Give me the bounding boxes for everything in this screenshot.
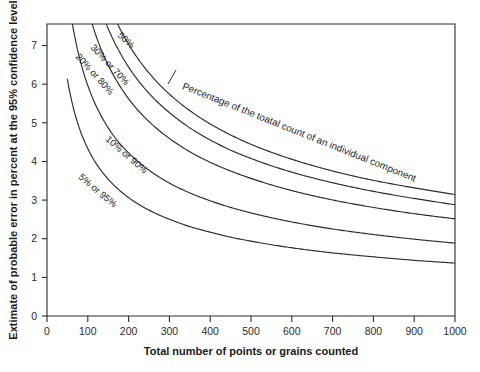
y-tick-label-0: 0 [31, 310, 37, 322]
x-tick-label-0: 0 [44, 325, 50, 337]
y-tick-label-1: 1 [31, 271, 37, 283]
x-tick-label-900: 900 [405, 325, 423, 337]
x-tick-label-600: 600 [283, 325, 301, 337]
y-tick-label-3: 3 [31, 194, 37, 206]
x-axis-title: Total number of points or grains counted [144, 345, 358, 357]
y-axis-title: Extimate of probable error in percent at… [7, 0, 19, 339]
probable-error-chart: 0 1 2 3 4 5 6 7 0 100 200 300 400 [0, 0, 480, 372]
y-tick-label-4: 4 [31, 155, 37, 167]
x-tick-label-300: 300 [161, 325, 179, 337]
y-tick-label-2: 2 [31, 232, 37, 244]
y-tick-label-7: 7 [31, 39, 37, 51]
x-tick-label-1000: 1000 [443, 325, 467, 337]
x-tick-label-100: 100 [79, 325, 97, 337]
x-tick-label-500: 500 [242, 325, 260, 337]
y-tick-label-5: 5 [31, 117, 37, 129]
x-tick-label-700: 700 [324, 325, 342, 337]
chart-container: 0 1 2 3 4 5 6 7 0 100 200 300 400 [0, 0, 480, 372]
x-tick-label-800: 800 [365, 325, 383, 337]
x-tick-label-400: 400 [201, 325, 219, 337]
y-tick-label-6: 6 [31, 78, 37, 90]
x-tick-label-200: 200 [120, 325, 138, 337]
